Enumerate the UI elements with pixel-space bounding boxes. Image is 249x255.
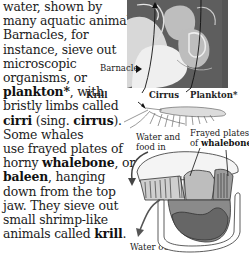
text-line: small shrimp-like <box>3 213 133 227</box>
text-line: water, shown by <box>3 0 133 14</box>
text-run: horny <box>3 155 42 170</box>
text-run: many aquatic animals. <box>3 13 140 28</box>
frayed-plates-label-line2: of whalebone <box>190 138 249 148</box>
cirrus-label: Cirrus <box>149 90 179 100</box>
body-text: water, shown bymany aquatic animals.Barn… <box>3 0 133 241</box>
text-run: organisms, or <box>3 70 87 85</box>
text-line: horny whalebone, or <box>3 156 133 170</box>
key-term: cirrus <box>73 113 113 128</box>
water-in-label-line1: Water and <box>136 132 180 142</box>
text-run: use frayed plates of <box>3 141 123 156</box>
text-line: cirri (sing. cirrus). <box>3 114 133 128</box>
text-line: organisms, or <box>3 71 133 85</box>
text-run: animals called <box>3 226 94 241</box>
text-run: Barnacles, for <box>3 27 88 42</box>
text-line: Some whales <box>3 128 133 142</box>
barnacle-label-text: Barnacle <box>100 63 138 73</box>
key-term: baleen <box>3 169 48 184</box>
text-run: Some whales <box>3 127 83 142</box>
text-line: use frayed plates of <box>3 142 133 156</box>
text-line: Barnacles, for <box>3 28 133 42</box>
cirrus-label-text: Cirrus <box>149 90 179 100</box>
text-line: many aquatic animals. <box>3 14 133 28</box>
text-run: . <box>122 226 126 241</box>
text-run: jaw. They sieve out <box>3 198 118 213</box>
water-out-label: Water out <box>130 242 172 252</box>
text-run: small shrimp-like <box>3 212 108 227</box>
text-run: , or <box>114 155 134 170</box>
key-term: krill <box>94 226 122 241</box>
text-run: microscopic <box>3 56 76 71</box>
barnacle-photo <box>127 0 228 88</box>
barnacle-illustration <box>127 0 228 88</box>
text-line: bristly limbs called <box>3 99 133 113</box>
text-run: bristly limbs called <box>3 98 118 113</box>
text-run: (sing. <box>32 113 73 128</box>
text-run: , hanging <box>48 169 105 184</box>
text-run: instance, sieve out <box>3 42 116 57</box>
plates-prefix: of <box>190 138 201 148</box>
water-out-label-text: Water out <box>130 242 172 252</box>
key-term: cirri <box>3 113 32 128</box>
plankton-label: Plankton* <box>190 90 237 100</box>
water-in-label: Water and food in <box>136 132 180 152</box>
water-in-label-line2: food in <box>136 142 180 152</box>
text-run: water, shown by <box>3 0 102 14</box>
krill-label: Krill <box>86 90 108 100</box>
key-term: plankton* <box>3 84 70 99</box>
plankton-label-text: Plankton* <box>190 90 237 100</box>
text-run: ). <box>113 113 121 128</box>
frayed-plates-label-line1: Frayed plates <box>190 128 249 138</box>
key-term: whalebone <box>42 155 114 170</box>
krill-pointer-line <box>138 102 144 107</box>
krill-label-text: Krill <box>86 90 108 100</box>
whalebone-term: whalebone <box>201 138 249 148</box>
frayed-plates-label: Frayed plates of whalebone <box>190 128 249 148</box>
barnacle-label: Barnacle <box>100 63 138 73</box>
text-line: jaw. They sieve out <box>3 199 133 213</box>
text-line: instance, sieve out <box>3 43 133 57</box>
text-line: baleen, hanging <box>3 170 133 184</box>
water-out-arrowhead-icon <box>136 228 144 237</box>
text-line: down from the top <box>3 185 133 199</box>
water-out-arrow <box>140 200 160 230</box>
text-run: down from the top <box>3 184 116 199</box>
text-line: plankton*, with <box>3 85 133 99</box>
text-line: animals called krill. <box>3 227 133 241</box>
